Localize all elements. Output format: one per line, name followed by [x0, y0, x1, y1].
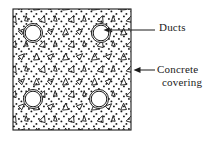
arrowhead-concrete-covering-icon: [134, 67, 141, 73]
callout-concrete-covering-leader: [134, 67, 156, 73]
duct-top-left: [24, 24, 43, 43]
figure-canvas: Ducts Concrete covering: [0, 0, 206, 141]
label-concrete-covering-line2: covering: [162, 76, 202, 88]
label-concrete-covering-line1: Concrete: [157, 63, 198, 75]
duct-top-right: [92, 24, 111, 43]
duct-bottom-right: [90, 90, 109, 109]
duct-bottom-left: [24, 90, 43, 109]
label-ducts: Ducts: [159, 21, 186, 33]
